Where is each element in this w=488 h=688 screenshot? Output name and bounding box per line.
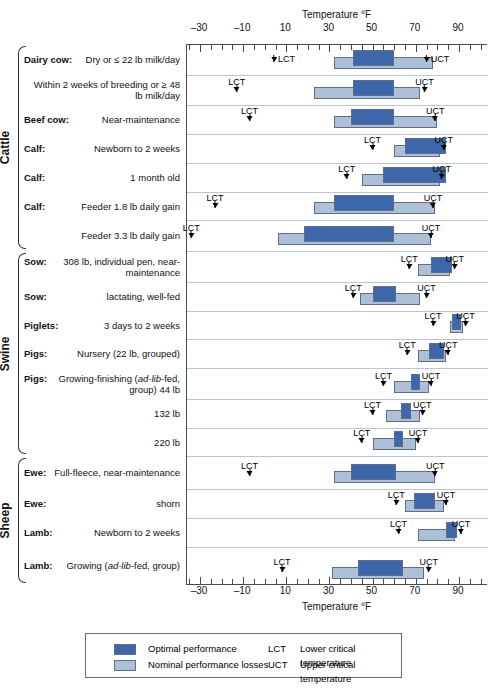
row-label: Pigs:Nursery (22 lb, grouped) bbox=[24, 348, 184, 359]
row-label-lead: Calf: bbox=[24, 172, 45, 183]
axis-tick-label: –10 bbox=[234, 22, 251, 33]
axis-tick-label: 50 bbox=[366, 22, 377, 33]
row-label: Lamb:Growing (ad-lib-fed, group) bbox=[24, 560, 184, 571]
legend-label-optimal: Optimal performance bbox=[148, 642, 237, 656]
uct-arrow-icon bbox=[432, 471, 438, 476]
axis-tick-label: –10 bbox=[234, 585, 251, 596]
chart-row: LCTUCT bbox=[187, 45, 488, 76]
lct-marker: LCT bbox=[399, 340, 416, 355]
lct-arrow-icon bbox=[370, 145, 376, 150]
chart-row: LCTUCT bbox=[187, 429, 488, 458]
row-label-lead: Pigs: bbox=[24, 348, 47, 359]
legend-row-optimal: Optimal performance LCT Lower critical t… bbox=[86, 642, 401, 656]
lct-marker: LCT bbox=[364, 400, 381, 415]
legend: Optimal performance LCT Lower critical t… bbox=[85, 633, 402, 678]
uct-marker: UCT bbox=[415, 77, 434, 92]
lct-label: LCT bbox=[278, 54, 295, 64]
row-label-lead: Lamb: bbox=[24, 560, 53, 571]
chart-row: LCTUCT bbox=[187, 490, 488, 519]
uct-arrow-icon bbox=[439, 174, 445, 179]
uct-marker: UCT bbox=[426, 461, 445, 476]
lct-marker: LCT bbox=[241, 106, 258, 121]
row-label-detail: 1 month old bbox=[130, 172, 180, 183]
lct-arrow-icon bbox=[406, 264, 412, 269]
uct-arrow-icon bbox=[428, 233, 434, 238]
axis-tick-label: 30 bbox=[323, 22, 334, 33]
chart-row: LCTUCT bbox=[187, 221, 488, 252]
lct-marker: LCT bbox=[345, 283, 362, 298]
uct-label: UCT bbox=[431, 54, 450, 64]
lct-arrow-icon bbox=[370, 410, 376, 415]
row-label: Calf:1 month old bbox=[24, 172, 184, 183]
bar-optimal-performance bbox=[353, 50, 394, 66]
row-label-detail: 132 lb bbox=[154, 408, 180, 419]
uct-marker: UCT bbox=[432, 164, 451, 179]
lct-arrow-icon bbox=[393, 500, 399, 505]
uct-marker: UCT bbox=[445, 254, 464, 269]
chart-row: LCTUCT bbox=[187, 135, 488, 164]
lct-marker: LCT bbox=[425, 311, 442, 326]
row-label-lead: Sow: bbox=[24, 256, 47, 267]
row-label-detail: 3 days to 2 weeks bbox=[104, 320, 180, 331]
row-label-detail: Newborn to 2 weeks bbox=[94, 527, 180, 538]
group-bracket bbox=[18, 46, 26, 249]
lct-marker: LCT bbox=[273, 557, 290, 572]
lct-marker: LCT bbox=[375, 371, 392, 386]
row-label: Dairy cow:Dry or ≤ 22 lb milk/day bbox=[24, 54, 184, 65]
lct-marker: LCT bbox=[338, 164, 355, 179]
row-label-detail: 308 lb, individual pen, near-maintenance bbox=[63, 256, 180, 278]
uct-arrow-icon bbox=[445, 350, 451, 355]
uct-arrow-icon bbox=[452, 264, 458, 269]
uct-arrow-icon bbox=[421, 87, 427, 92]
axis-tick-label: –30 bbox=[191, 585, 208, 596]
lct-marker: LCT bbox=[241, 461, 258, 476]
lct-arrow-icon bbox=[279, 567, 285, 572]
bar-optimal-performance bbox=[414, 493, 436, 509]
axis-tick-label: 90 bbox=[452, 22, 463, 33]
uct-marker: UCT bbox=[419, 557, 438, 572]
bar-optimal-performance bbox=[411, 374, 420, 390]
legend-abbr-lct: LCT bbox=[268, 642, 286, 656]
legend-def-uct: Upper critical temperature bbox=[300, 658, 401, 686]
uct-arrow-icon bbox=[430, 203, 436, 208]
bar-optimal-performance bbox=[373, 286, 397, 302]
chart-row: LCTUCT bbox=[187, 400, 488, 429]
lct-marker: LCT bbox=[228, 77, 245, 92]
chart-row: LCTUCT bbox=[187, 283, 488, 312]
uct-marker: UCT bbox=[422, 371, 441, 386]
bar-optimal-performance bbox=[394, 431, 403, 447]
row-label-detail: Newborn to 2 weeks bbox=[94, 143, 180, 154]
row-label-lead: Dairy cow: bbox=[24, 54, 72, 65]
row-label-lead: Beef cow: bbox=[24, 114, 69, 125]
row-label-lead: Sow: bbox=[24, 291, 47, 302]
row-label: 220 lb bbox=[24, 437, 184, 448]
row-label-lead: Calf: bbox=[24, 201, 45, 212]
row-label: Sow:lactating, well-fed bbox=[24, 291, 184, 302]
row-label-detail: Near-maintenance bbox=[102, 114, 180, 125]
row-label: Ewe:shorn bbox=[24, 498, 184, 509]
lct-marker: LCT bbox=[353, 428, 370, 443]
uct-arrow-icon bbox=[458, 529, 464, 534]
uct-marker: UCT bbox=[437, 490, 456, 505]
axis-tick-label: 10 bbox=[280, 22, 291, 33]
row-label: Pigs:Growing-finishing (ad-lib-fed, grou… bbox=[24, 373, 184, 395]
uct-marker: UCT bbox=[456, 311, 475, 326]
chart-row: LCTUCT bbox=[187, 340, 488, 369]
uct-arrow-icon bbox=[426, 567, 432, 572]
row-label: Piglets:3 days to 2 weeks bbox=[24, 320, 184, 331]
uct-arrow-icon bbox=[443, 500, 449, 505]
lct-arrow-icon bbox=[350, 293, 356, 298]
bar-optimal-performance bbox=[304, 226, 395, 242]
axis-tick-label: 90 bbox=[452, 585, 463, 596]
plot-frame: LCTUCTLCTUCTLCTUCTLCTUCTLCTUCTLCTUCTLCTU… bbox=[186, 44, 487, 585]
lct-marker: LCT bbox=[207, 193, 224, 208]
axis-tick-label: 70 bbox=[409, 22, 420, 33]
row-label: Beef cow:Near-maintenance bbox=[24, 114, 184, 125]
legend-swatch-optimal-icon bbox=[114, 644, 136, 655]
bar-optimal-performance bbox=[351, 109, 394, 125]
lct-arrow-icon bbox=[359, 438, 365, 443]
chart-row: LCTUCT bbox=[187, 548, 488, 586]
lct-arrow-icon bbox=[247, 471, 253, 476]
lct-arrow-icon bbox=[404, 350, 410, 355]
lct-arrow-icon bbox=[344, 174, 350, 179]
